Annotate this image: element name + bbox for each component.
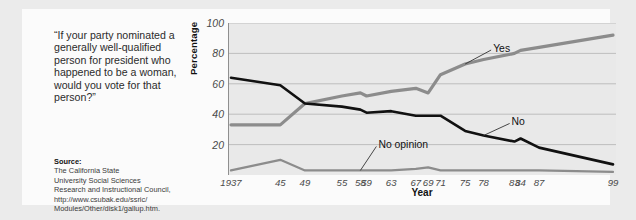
plot-area bbox=[228, 23, 616, 175]
y-tick-40: 40 bbox=[190, 108, 224, 120]
y-axis-ticks: 20406080100 bbox=[188, 23, 224, 175]
series-line-yes bbox=[231, 35, 613, 125]
source-line-2: Research and Instructional Council, bbox=[54, 185, 202, 194]
annotation-no-opinion: No opinion bbox=[378, 139, 428, 150]
source-line-3: http://www.csubak.edu/ssric/ bbox=[54, 195, 202, 204]
y-tick-60: 60 bbox=[190, 78, 224, 90]
y-tick-100: 100 bbox=[190, 17, 224, 29]
source-line-4: Modules/Other/disk1/gallup.htm. bbox=[54, 204, 202, 213]
x-axis-label: Year bbox=[228, 187, 616, 198]
source-line-0: The California State bbox=[54, 166, 202, 175]
figure-root: “If your party nominated a generally wel… bbox=[0, 0, 636, 220]
line-chart: Percentage 20406080100 19374549555859636… bbox=[200, 23, 624, 203]
survey-question-text: “If your party nominated a generally wel… bbox=[54, 29, 194, 103]
series-line-no-opinion bbox=[231, 160, 613, 172]
annotation-yes: Yes bbox=[493, 43, 510, 54]
y-tick-80: 80 bbox=[190, 47, 224, 59]
source-line-1: University Social Sciences bbox=[54, 176, 202, 185]
annotation-no: No bbox=[512, 116, 525, 127]
y-tick-20: 20 bbox=[190, 139, 224, 151]
source-citation: Source: The California State University … bbox=[54, 157, 202, 213]
source-label: Source: bbox=[54, 157, 82, 166]
figure-card: “If your party nominated a generally wel… bbox=[22, 9, 610, 205]
